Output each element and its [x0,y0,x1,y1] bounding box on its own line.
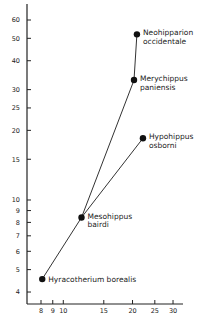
series-lines [42,34,143,279]
axes: 4567891015202530405060891015202530 [12,4,183,315]
y-tick-label: 7 [16,232,20,240]
series-line [42,34,137,279]
point-label-hyracotherium: Hyracotherium borealis [48,275,136,284]
y-tick-label: 9 [16,207,20,215]
point-label-merychippus: paniensis [140,83,176,92]
y-tick-label: 20 [12,127,20,135]
y-tick-label: 6 [16,248,20,256]
y-tick-label: 40 [12,57,20,65]
x-tick-label: 8 [39,307,43,315]
data-point-mesohippus [78,214,84,220]
x-tick-label: 30 [169,307,177,315]
data-point-hypohippus [140,135,146,141]
data-point-merychippus [131,77,137,83]
x-tick-label: 15 [100,307,108,315]
y-tick-label: 30 [12,86,20,94]
x-tick-label: 25 [151,307,159,315]
point-label-mesohippus: bairdi [88,220,109,229]
y-tick-label: 15 [12,156,20,164]
y-tick-label: 5 [16,266,20,274]
series-line [82,138,144,217]
chart: 4567891015202530405060891015202530 Hyrac… [0,0,216,325]
point-label-hypohippus: osborni [149,141,177,150]
x-tick-label: 10 [59,307,67,315]
y-tick-label: 8 [16,219,20,227]
data-points: Hyracotherium borealisMesohippusbairdiMe… [39,28,193,284]
data-point-hyracotherium [39,276,45,282]
y-tick-label: 60 [12,16,20,24]
data-point-neohipparion [134,31,140,37]
y-tick-label: 10 [12,196,20,204]
point-label-neohipparion: occidentale [143,37,187,46]
y-tick-label: 25 [12,104,20,112]
y-tick-label: 4 [16,288,20,296]
y-tick-label: 50 [12,35,20,43]
x-tick-label: 20 [128,307,136,315]
x-tick-label: 9 [51,307,55,315]
